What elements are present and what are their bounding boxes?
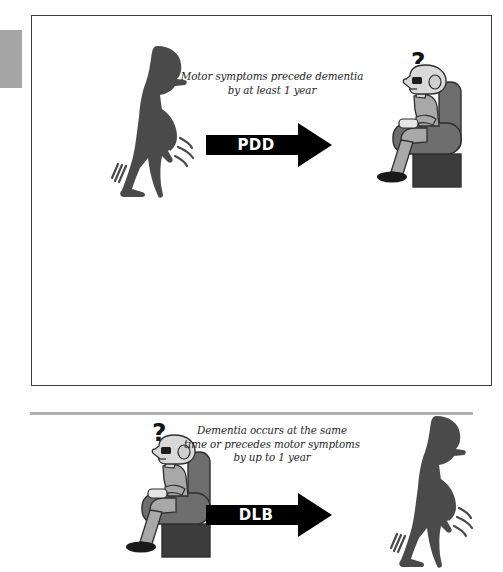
standing-tremor-silhouette-icon-dlb: [389, 410, 484, 572]
caption-dlb-line-2: time or precedes motor symptoms: [170, 438, 374, 452]
arrow-pdd-label: PDD: [206, 122, 306, 168]
page-edge-tab: [0, 30, 22, 88]
figure-frame: Motor symptoms precede dementia by at le…: [31, 15, 492, 386]
caption-pdd: Motor symptoms precede dementia by at le…: [172, 70, 372, 97]
arrow-dlb-label: DLB: [206, 492, 306, 538]
caption-dlb-line-1: Dementia occurs at the same: [170, 424, 374, 438]
caption-pdd-line-2: by at least 1 year: [172, 84, 372, 98]
arrow-pdd: PDD: [206, 122, 332, 168]
figure-row-pdd: Motor symptoms precede dementia by at le…: [32, 22, 493, 200]
bottom-divider-rule: [30, 412, 473, 415]
standing-tremor-silhouette-icon: [110, 40, 205, 205]
caption-pdd-line-1: Motor symptoms precede dementia: [172, 70, 372, 84]
caption-dlb: Dementia occurs at the same time or prec…: [170, 424, 374, 465]
seated-elderly-armchair-icon-pdd: [367, 62, 477, 192]
caption-dlb-line-3: by up to 1 year: [170, 451, 374, 465]
arrow-dlb: DLB: [206, 492, 332, 538]
figure-row-dlb: ?: [32, 202, 493, 380]
